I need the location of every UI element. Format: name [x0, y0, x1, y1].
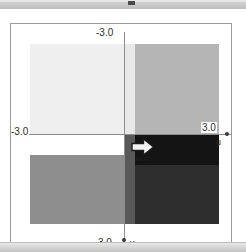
next-button[interactable]: NEXT — [130, 137, 156, 165]
u-axis-line — [11, 134, 231, 135]
window-status-strip — [0, 242, 246, 252]
heatmap-cell-upper-left-block — [30, 44, 124, 134]
heatmap-cell-lower-left-white-gap — [30, 134, 124, 155]
next-button-label: NEXT — [130, 156, 156, 162]
plot-panel: -3.0 -3.0 3.0 3.0 u v NEXT — [10, 23, 232, 249]
v-axis-line — [124, 32, 125, 242]
heatmap-cell-upper-mid-strip — [124, 44, 135, 134]
u-axis-name-label: u — [216, 137, 221, 147]
u-axis-max-tick-label: 3.0 — [201, 122, 217, 133]
heatmap-cell-lower-right-lower-block — [135, 165, 219, 224]
heatmap-cell-lower-left-block — [30, 155, 124, 224]
title-bar-highlight — [0, 0, 246, 2]
heatmap-cell-upper-right-block — [135, 44, 219, 134]
u-axis-arrow-tip-icon — [225, 132, 229, 136]
window-marker-icon — [128, 1, 135, 5]
window-content-area: -3.0 -3.0 3.0 3.0 u v NEXT — [0, 9, 246, 242]
arrow-right-icon — [130, 137, 156, 157]
heatmap-canvas: -3.0 -3.0 3.0 3.0 u v NEXT — [11, 24, 231, 248]
v-axis-min-tick-label: -3.0 — [95, 27, 114, 38]
u-axis-min-tick-label: -3.0 — [11, 126, 29, 137]
